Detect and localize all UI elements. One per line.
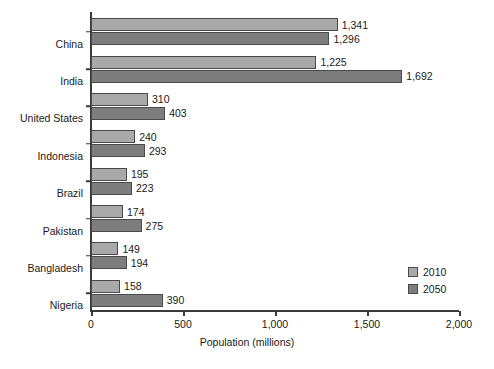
legend-label-2010: 2010 xyxy=(423,266,446,278)
bar-value-label: 1,225 xyxy=(316,56,346,68)
x-axis-title: Population (millions) xyxy=(0,336,494,348)
bar-group: 149194 xyxy=(91,242,459,269)
category-label-china: China xyxy=(56,38,83,50)
y-axis-tick xyxy=(86,106,91,108)
bar-2010 xyxy=(91,242,118,255)
bar-row: 275 xyxy=(91,219,459,232)
bar-value-label: 275 xyxy=(142,220,164,232)
bar-row: 403 xyxy=(91,107,459,120)
bar-value-label: 158 xyxy=(120,280,142,292)
bar-row: 149 xyxy=(91,242,459,255)
bar-2050 xyxy=(91,107,165,120)
bar-row: 1,296 xyxy=(91,32,459,45)
y-axis-tick xyxy=(86,293,91,295)
bar-2050 xyxy=(91,32,329,45)
bar-row: 240 xyxy=(91,130,459,143)
x-axis-tick xyxy=(459,311,461,316)
bar-2050 xyxy=(91,219,142,232)
y-axis-tick xyxy=(86,143,91,145)
category-label-bangladesh: Bangladesh xyxy=(28,262,83,274)
chart-legend: 20102050 xyxy=(408,264,446,298)
bar-row: 293 xyxy=(91,144,459,157)
population-bar-chart: 1,3411,296China1,2251,692India310403Unit… xyxy=(0,0,494,369)
bar-value-label: 1,296 xyxy=(329,33,359,45)
y-axis-tick xyxy=(86,31,91,33)
bar-row: 174 xyxy=(91,205,459,218)
bar-value-label: 310 xyxy=(148,93,170,105)
bar-value-label: 174 xyxy=(123,206,145,218)
x-axis-tick xyxy=(367,311,369,316)
bar-value-label: 194 xyxy=(127,257,149,269)
bar-group: 1,3411,296 xyxy=(91,18,459,45)
legend-swatch-2050 xyxy=(408,284,418,294)
y-axis-tick xyxy=(86,68,91,70)
x-axis-tick xyxy=(275,311,277,316)
bar-row: 195 xyxy=(91,168,459,181)
legend-swatch-2010 xyxy=(408,267,418,277)
bar-value-label: 390 xyxy=(163,294,185,306)
bar-group: 174275 xyxy=(91,205,459,232)
bar-2050 xyxy=(91,256,127,269)
bar-2010 xyxy=(91,93,148,106)
category-label-indonesia: Indonesia xyxy=(37,150,83,162)
bar-value-label: 223 xyxy=(132,182,154,194)
bar-2050 xyxy=(91,294,163,307)
bar-2010 xyxy=(91,130,135,143)
bar-row: 223 xyxy=(91,182,459,195)
bar-group: 195223 xyxy=(91,168,459,195)
bar-2050 xyxy=(91,144,145,157)
y-axis-tick xyxy=(86,255,91,257)
bar-value-label: 149 xyxy=(118,243,140,255)
legend-item-2050: 2050 xyxy=(408,281,446,296)
legend-label-2050: 2050 xyxy=(423,283,446,295)
category-label-nigeria: Nigeria xyxy=(50,299,83,311)
bar-2010 xyxy=(91,56,316,69)
x-axis-tick xyxy=(91,311,93,316)
plot-area: 1,3411,296China1,2251,692India310403Unit… xyxy=(91,12,459,311)
category-label-brazil: Brazil xyxy=(57,187,83,199)
bar-value-label: 403 xyxy=(165,107,187,119)
bar-value-label: 1,692 xyxy=(402,70,432,82)
bar-row: 1,692 xyxy=(91,70,459,83)
bar-row: 1,225 xyxy=(91,56,459,69)
category-label-united-states: United States xyxy=(20,112,83,124)
bar-group: 158390 xyxy=(91,280,459,307)
bar-row: 194 xyxy=(91,256,459,269)
bar-row: 1,341 xyxy=(91,18,459,31)
bar-value-label: 195 xyxy=(127,168,149,180)
bar-2010 xyxy=(91,18,338,31)
bar-value-label: 293 xyxy=(145,145,167,157)
bar-2010 xyxy=(91,205,123,218)
bar-row: 310 xyxy=(91,93,459,106)
bar-2010 xyxy=(91,168,127,181)
bar-group: 240293 xyxy=(91,130,459,157)
bar-row: 390 xyxy=(91,294,459,307)
legend-item-2010: 2010 xyxy=(408,264,446,279)
x-axis-tick-label: 2,000 xyxy=(446,318,472,330)
x-axis-tick-label: 0 xyxy=(88,318,94,330)
y-axis-tick xyxy=(86,180,91,182)
category-label-pakistan: Pakistan xyxy=(43,225,83,237)
x-axis-tick-label: 500 xyxy=(174,318,192,330)
bar-value-label: 1,341 xyxy=(338,19,368,31)
bar-value-label: 240 xyxy=(135,131,157,143)
x-axis-tick-label: 1,000 xyxy=(262,318,288,330)
bar-row: 158 xyxy=(91,280,459,293)
x-axis-tick xyxy=(183,311,185,316)
y-axis-tick xyxy=(86,218,91,220)
bar-group: 1,2251,692 xyxy=(91,56,459,83)
bar-group: 310403 xyxy=(91,93,459,120)
bar-2050 xyxy=(91,182,132,195)
bar-2010 xyxy=(91,280,120,293)
bar-2050 xyxy=(91,70,402,83)
category-label-india: India xyxy=(60,75,83,87)
x-axis-tick-label: 1,500 xyxy=(354,318,380,330)
